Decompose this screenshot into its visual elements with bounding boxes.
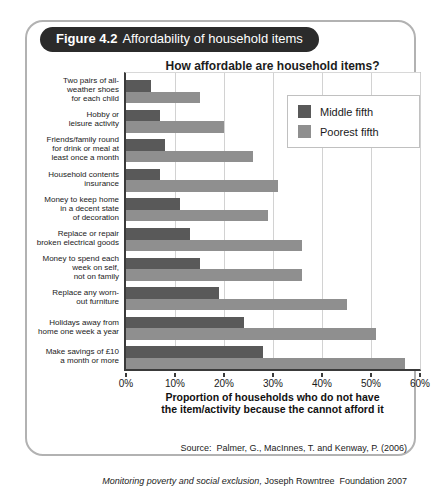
legend-item-middle-fifth: Middle fifth: [298, 105, 410, 118]
bar-group: [126, 287, 420, 310]
category-label: Hobby or leisure activity: [27, 105, 119, 135]
gridline: [420, 73, 421, 369]
bar-group: [126, 169, 420, 192]
category-label: Make savings of £10 a month or more: [27, 341, 119, 371]
figure-card: Figure 4.2Affordability of household ite…: [25, 20, 416, 456]
bar-poorest-fifth: [126, 240, 302, 252]
x-axis-label: Proportion of households who do not have…: [124, 392, 421, 415]
bar-middle-fifth: [126, 317, 244, 329]
source-publisher: Joseph Rowntree Foundation 2007: [262, 476, 407, 486]
x-tick-label: 0%: [119, 378, 133, 389]
bar-poorest-fifth: [126, 180, 278, 192]
legend-swatch-poorest-fifth: [298, 125, 311, 138]
x-tick-label: 10%: [165, 378, 185, 389]
bar-middle-fifth: [126, 346, 263, 358]
bar-poorest-fifth: [126, 92, 200, 104]
category-label: Household contents insurance: [27, 164, 119, 194]
x-tick-label: 50%: [361, 378, 381, 389]
axis-tick: [125, 373, 127, 377]
bar-middle-fifth: [126, 110, 160, 122]
figure-badge-title: Affordability of household items: [122, 31, 302, 46]
category-label: Friends/family round for drink or meal a…: [27, 134, 119, 164]
legend-swatch-middle-fifth: [298, 105, 311, 118]
chart-title: How affordable are household items?: [124, 59, 421, 73]
bar-poorest-fifth: [126, 299, 347, 311]
bar-poorest-fifth: [126, 210, 268, 222]
category-label: Money to spend each week on self, not on…: [27, 253, 119, 283]
bar-middle-fifth: [126, 169, 160, 181]
bar-poorest-fifth: [126, 358, 405, 370]
category-label: Money to keep home in a decent state of …: [27, 193, 119, 223]
category-label: Holidays away from home one week a year: [27, 312, 119, 342]
bar-middle-fifth: [126, 228, 190, 240]
bar-middle-fifth: [126, 258, 200, 270]
bar-group: [126, 198, 420, 221]
legend-item-poorest-fifth: Poorest fifth: [298, 125, 410, 138]
x-tick-label: 40%: [312, 378, 332, 389]
category-labels: Two pairs of all- weather shoes for each…: [27, 75, 119, 371]
bar-group: [126, 346, 420, 369]
axis-tick: [370, 373, 372, 377]
x-tick-label: 60%: [410, 378, 430, 389]
bar-poorest-fifth: [126, 151, 253, 163]
axis-tick: [174, 373, 176, 377]
category-label: Replace or repair broken electrical good…: [27, 223, 119, 253]
x-axis-tick-labels: 0%10%20%30%40%50%60%: [126, 378, 420, 390]
bar-middle-fifth: [126, 139, 165, 151]
category-label: Replace any worn- out furniture: [27, 282, 119, 312]
source-citation: Source: Palmer, G., MacInnes, T. and Ken…: [102, 421, 407, 490]
chart-legend: Middle fifth Poorest fifth: [287, 95, 420, 148]
legend-label-poorest-fifth: Poorest fifth: [320, 126, 379, 138]
source-line-1: Source: Palmer, G., MacInnes, T. and Ken…: [102, 443, 407, 454]
figure-badge: Figure 4.2Affordability of household ite…: [40, 27, 319, 52]
bar-group: [126, 317, 420, 340]
x-tick-label: 20%: [214, 378, 234, 389]
figure-number: Figure 4.2: [56, 31, 117, 46]
axis-tick: [321, 373, 323, 377]
axis-tick: [223, 373, 225, 377]
axis-tick: [419, 373, 421, 377]
legend-label-middle-fifth: Middle fifth: [320, 106, 373, 118]
bar-poorest-fifth: [126, 269, 302, 281]
bar-group: [126, 258, 420, 281]
bar-middle-fifth: [126, 287, 219, 299]
axis-tick: [272, 373, 274, 377]
bar-middle-fifth: [126, 80, 151, 92]
bar-middle-fifth: [126, 198, 180, 210]
bar-poorest-fifth: [126, 328, 376, 340]
source-line-2: Monitoring poverty and social exclusion,…: [102, 476, 407, 487]
x-tick-label: 30%: [263, 378, 283, 389]
source-publication-title: Monitoring poverty and social exclusion,: [102, 476, 262, 486]
category-label: Two pairs of all- weather shoes for each…: [27, 75, 119, 105]
bar-poorest-fifth: [126, 121, 224, 133]
plot-area: Middle fifth Poorest fifth: [124, 72, 421, 371]
bar-group: [126, 228, 420, 251]
